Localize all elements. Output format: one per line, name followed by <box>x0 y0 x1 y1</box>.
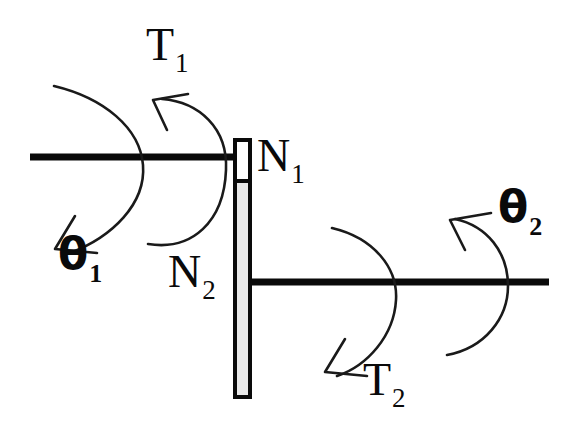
label-angle-input: θ1 <box>58 232 101 276</box>
label-teeth-lower: N2 <box>168 249 215 295</box>
label-teeth-upper: N1 <box>257 133 304 179</box>
label-angle-output-base: θ <box>498 181 528 232</box>
gear-plate-lower-section <box>235 181 250 397</box>
gear-plate-upper-section <box>235 140 250 183</box>
label-angle-input-base: θ <box>58 228 88 279</box>
torsional-shaft-diagram: T1 θ1 N1 N2 θ2 T2 <box>0 0 580 445</box>
label-angle-output: θ2 <box>498 185 541 229</box>
label-torque-output-subscript: 2 <box>392 383 406 413</box>
label-teeth-lower-subscript: 2 <box>202 275 216 305</box>
label-torque-input: T1 <box>146 22 188 68</box>
label-teeth-upper-base: N <box>257 130 290 181</box>
label-torque-input-subscript: 1 <box>175 48 189 78</box>
T1-arc-group <box>148 94 226 245</box>
T2-arrowhead <box>325 339 367 376</box>
T1-arc-path <box>148 99 226 245</box>
label-torque-output: T2 <box>363 357 405 403</box>
label-torque-input-base: T <box>146 19 174 70</box>
diagram-canvas <box>0 0 580 445</box>
theta2-arrowhead <box>450 213 491 250</box>
theta2-arc-path <box>447 219 508 355</box>
label-angle-input-subscript: 1 <box>89 259 102 288</box>
label-angle-output-subscript: 2 <box>529 212 542 241</box>
label-teeth-lower-base: N <box>168 246 201 297</box>
label-torque-output-base: T <box>363 354 391 405</box>
label-teeth-upper-subscript: 1 <box>291 159 305 189</box>
